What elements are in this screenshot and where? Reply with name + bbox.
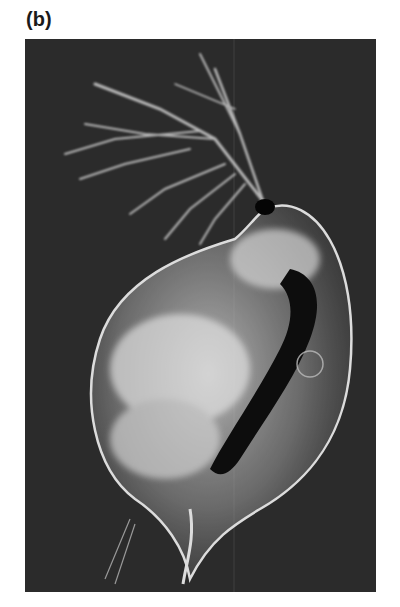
daphnia-illustration [25, 39, 376, 592]
panel-label: (b) [26, 8, 52, 31]
micrograph-photo [25, 39, 376, 592]
